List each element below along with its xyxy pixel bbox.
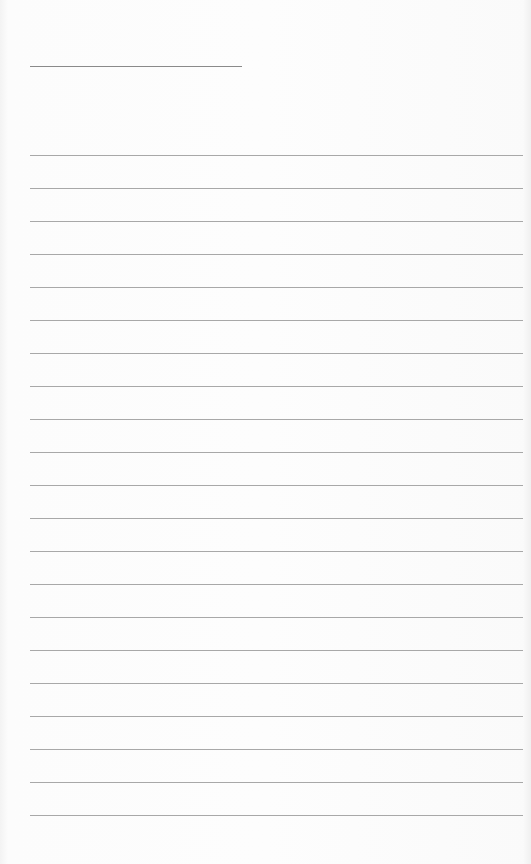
ruled-line (30, 353, 523, 354)
ruled-line (30, 155, 523, 156)
ruled-line (30, 386, 523, 387)
ruled-line (30, 320, 523, 321)
ruled-line (30, 617, 523, 618)
ruled-line (30, 716, 523, 717)
ruled-line (30, 452, 523, 453)
ruled-line (30, 650, 523, 651)
ruled-line (30, 683, 523, 684)
ruled-line (30, 551, 523, 552)
ruled-line (30, 518, 523, 519)
ruled-line (30, 815, 523, 816)
ruled-line (30, 188, 523, 189)
ruled-line (30, 419, 523, 420)
lined-paper-page (0, 0, 531, 864)
ruled-line (30, 749, 523, 750)
ruled-line (30, 485, 523, 486)
ruled-line (30, 254, 523, 255)
page-edge-shadow (523, 0, 531, 864)
header-line (30, 66, 242, 67)
ruled-line (30, 287, 523, 288)
ruled-line (30, 221, 523, 222)
ruled-line (30, 782, 523, 783)
ruled-line (30, 584, 523, 585)
